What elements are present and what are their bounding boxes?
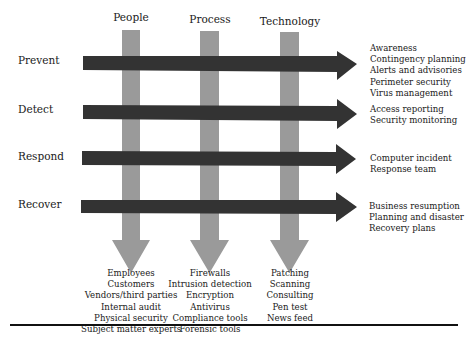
- detect-items: Access reporting Security monitoring: [370, 104, 457, 126]
- list-item: Antivirus: [165, 302, 255, 313]
- list-item: Computer incident: [370, 153, 452, 164]
- list-item: Business resumption: [369, 201, 464, 212]
- list-item: Compliance tools: [165, 313, 255, 324]
- list-item: Pen test: [255, 302, 325, 313]
- list-item: Access reporting: [370, 104, 457, 115]
- bottom-divider: [10, 324, 458, 326]
- list-item: Scanning: [255, 279, 325, 290]
- list-item: Consulting: [255, 290, 325, 301]
- list-item: Awareness: [370, 43, 466, 54]
- column-header-process: Process: [170, 13, 250, 25]
- row-label-detect: Detect: [18, 103, 53, 115]
- technology-items: Patching Scanning Consulting Pen test Ne…: [255, 268, 325, 324]
- row-label-recover: Recover: [18, 198, 62, 210]
- list-item: Virus management: [370, 88, 466, 99]
- list-item: News feed: [255, 313, 325, 324]
- column-header-technology: Technology: [250, 15, 330, 27]
- list-item: Contingency planning: [370, 54, 466, 65]
- list-item: Response team: [370, 164, 452, 175]
- prevent-items: Awareness Contingency planning Alerts an…: [370, 43, 466, 99]
- list-item: Recovery plans: [369, 223, 464, 234]
- respond-items: Computer incident Response team: [370, 153, 452, 175]
- list-item: Alerts and advisories: [370, 65, 466, 76]
- list-item: Security monitoring: [370, 115, 457, 126]
- recover-items: Business resumption Planning and disaste…: [369, 201, 464, 235]
- row-label-prevent: Prevent: [18, 54, 59, 66]
- list-item: Intrusion detection: [165, 279, 255, 290]
- list-item: Encryption: [165, 290, 255, 301]
- list-item: Patching: [255, 268, 325, 279]
- list-item: Planning and disaster: [369, 212, 464, 223]
- list-item: Firewalls: [165, 268, 255, 279]
- row-label-respond: Respond: [18, 150, 64, 162]
- list-item: Perimeter security: [370, 77, 466, 88]
- column-header-people: People: [91, 11, 171, 23]
